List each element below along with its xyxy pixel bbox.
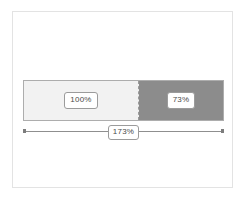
bar-segment-extra[interactable]: 73% [139,81,223,120]
bar-segment-base-label: 100% [64,92,97,109]
figure-canvas: 100% 73% 173% [0,0,245,199]
total-dimension-label: 173% [108,125,139,140]
bar-segment-base[interactable]: 100% [24,81,139,120]
bar-segment-extra-label: 73% [167,92,196,109]
stacked-bar: 100% 73% [23,80,224,121]
dimension-label-wrap: 173% [23,125,224,139]
total-dimension: 173% [23,125,224,139]
